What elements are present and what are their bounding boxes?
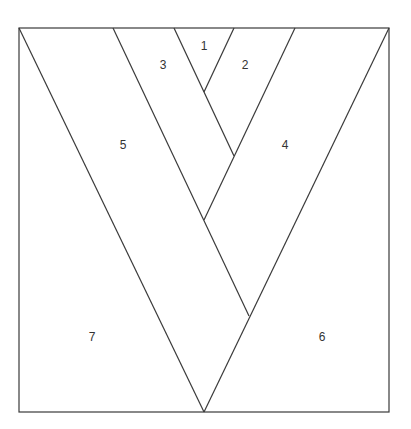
seam-line bbox=[19, 28, 204, 412]
seam-lines bbox=[19, 28, 389, 412]
piece-label-4: 4 bbox=[282, 138, 289, 152]
piece-label-6: 6 bbox=[319, 330, 326, 344]
piece-label-7: 7 bbox=[89, 330, 96, 344]
seam-line bbox=[204, 28, 295, 220]
piece-label-2: 2 bbox=[242, 58, 249, 72]
seam-line bbox=[204, 28, 389, 412]
seam-line bbox=[204, 28, 234, 92]
piece-label-3: 3 bbox=[160, 58, 167, 72]
piece-label-5: 5 bbox=[120, 138, 127, 152]
pattern-diagram: 1 2 3 4 5 6 7 bbox=[0, 0, 411, 429]
piece-label-1: 1 bbox=[201, 39, 208, 53]
seam-line bbox=[113, 28, 249, 316]
